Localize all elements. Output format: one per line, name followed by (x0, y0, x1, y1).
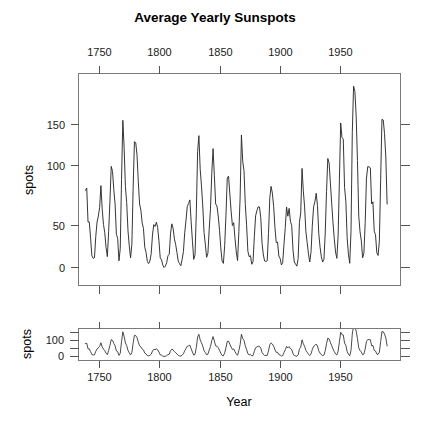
overview-x-tick-label-2: 1850 (208, 371, 232, 383)
overview-x-tick-label-1: 1800 (147, 371, 171, 383)
main-x-tick-label-3: 1900 (268, 46, 292, 58)
main-y-tick-label-2: 100 (47, 160, 65, 172)
overview-series-group (85, 326, 387, 356)
main-y-axis-title: spots (22, 165, 36, 195)
sunspots-figure: 1750 1800 1850 1900 1950 0 50 100 150 (0, 0, 427, 423)
overview-y-tick-label-1: 100 (46, 334, 64, 346)
main-x-tick-label-1: 1800 (147, 46, 171, 58)
overview-y-axis-title: spots (20, 329, 34, 359)
main-x-ticks-top (100, 66, 341, 74)
main-y-ticks-right (401, 125, 410, 268)
main-x-tick-label-4: 1950 (328, 46, 352, 58)
main-y-tick-label-3: 150 (47, 119, 65, 131)
main-series-group (85, 86, 387, 267)
overview-x-tick-label-3: 1900 (268, 371, 292, 383)
main-panel-frame (79, 74, 401, 286)
overview-x-ticks-top (100, 322, 341, 329)
overview-y-tick-label-0: 0 (58, 350, 64, 362)
overview-y-ticks-left (70, 333, 79, 357)
sunspots-line-overview (85, 326, 387, 356)
page-title: Average Yearly Sunspots (134, 10, 295, 25)
overview-x-tick-label-0: 1750 (87, 371, 111, 383)
overview-panel: 1750 1800 1850 1900 1950 0 100 spo (20, 322, 410, 384)
main-y-tick-label-0: 0 (59, 262, 65, 274)
chart-canvas: 1750 1800 1850 1900 1950 0 50 100 150 (0, 0, 427, 423)
x-axis-title: Year (226, 395, 251, 409)
main-y-tick-label-1: 50 (53, 220, 65, 232)
main-panel: 1750 1800 1850 1900 1950 0 50 100 150 (22, 46, 410, 294)
main-x-tick-label-0: 1750 (87, 46, 111, 58)
main-y-ticks-left (71, 125, 79, 268)
sunspots-line (85, 86, 387, 267)
main-x-ticks-bottom (100, 286, 341, 294)
overview-x-ticks-bottom (100, 361, 341, 368)
overview-y-ticks-right (401, 333, 410, 357)
main-x-tick-label-2: 1850 (208, 46, 232, 58)
overview-x-tick-label-4: 1950 (328, 371, 352, 383)
